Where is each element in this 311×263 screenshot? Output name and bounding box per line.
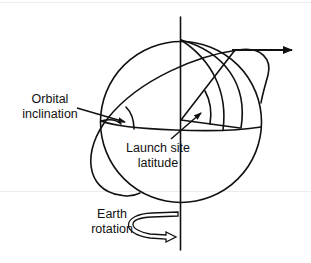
earth-rotation-label: Earth rotation: [88, 207, 136, 237]
latitude-angle-arc: [205, 91, 211, 124]
earth-rotation-line-1: Earth: [88, 207, 136, 222]
launch-site-latitude-label: Launch site latitude: [118, 141, 198, 171]
orbital-inclination-line-1: Orbital: [15, 92, 85, 107]
orbit-ellipse-lower: [120, 193, 140, 196]
orbit-diagram: [0, 0, 311, 263]
orbital-inclination-label: Orbital inclination: [15, 92, 85, 122]
latitude-pointer-arrow: [171, 113, 201, 139]
launch-site-latitude-line-1: Launch site: [118, 141, 198, 156]
earth-rotation-line-2: rotation: [88, 222, 136, 237]
orbital-inclination-line-2: inclination: [15, 107, 85, 122]
launch-site-latitude-line-2: latitude: [118, 156, 198, 171]
latitude-radius: [181, 50, 235, 120]
